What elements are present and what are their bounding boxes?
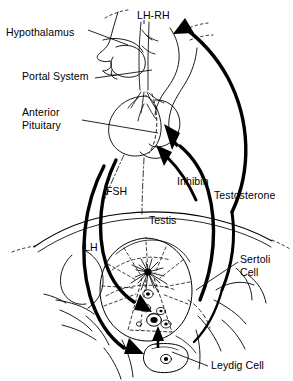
figure-canvas: Hypothalamus LH-RH Portal System Anterio… [0, 0, 293, 381]
label-sertoli-cell-line1: Sertoli [240, 253, 270, 266]
portal-system-vessels [128, 30, 164, 121]
arrow-fsh [101, 160, 152, 312]
label-leydig-cell: Leydig Cell [211, 359, 264, 372]
skull-neck-contour [155, 28, 197, 138]
label-sertoli-cell-line2: Cell [240, 266, 259, 279]
head-profile [97, 12, 145, 79]
label-lh: LH [84, 241, 98, 254]
label-inhibin: Inhibin [177, 175, 209, 188]
label-lh-rh: LH-RH [137, 9, 170, 22]
pituitary-lobe-divider [149, 94, 157, 153]
leader-sertoli-cell [196, 262, 238, 290]
leader-leydig-cell [172, 352, 208, 366]
label-anterior-pituitary-line1: Anterior [22, 106, 60, 119]
label-testis: Testis [149, 214, 176, 227]
label-hypothalamus: Hypothalamus [6, 26, 74, 39]
sertoli-cell [147, 313, 162, 326]
label-fsh: FSH [106, 185, 127, 198]
label-testosterone: Testosterone [214, 189, 275, 202]
label-portal-system: Portal System [22, 70, 89, 83]
rete-testis [131, 259, 167, 292]
leydig-cell [143, 344, 188, 373]
leader-anterior-pituitary [82, 120, 158, 133]
arrow-inhibin-secondary [156, 145, 196, 200]
arrow-leydig-to-tubule [152, 326, 164, 348]
epididymis [176, 300, 210, 353]
label-anterior-pituitary-line2: Pituitary [22, 119, 61, 132]
leader-hypothalamus [88, 30, 128, 45]
